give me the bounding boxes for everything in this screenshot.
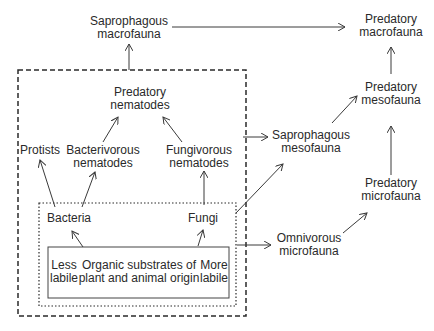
node-bacterivorous-nematodes: Bacterivorous nematodes	[66, 144, 139, 170]
label-line: Fungi	[188, 212, 218, 225]
label-line: labile	[200, 272, 228, 285]
node-protists: Protists	[20, 144, 60, 157]
node-more-labile: More labile	[200, 259, 228, 285]
arrow-omnivorous-to-predatory-micro	[343, 213, 367, 233]
node-saprophagous-mesofauna: Saprophagous mesofauna	[272, 129, 350, 155]
label-line: labile	[50, 272, 78, 285]
node-omnivorous-microfauna: Omnivorous microfauna	[277, 232, 342, 258]
label-line: mesofauna	[272, 142, 350, 155]
arrow-substrate-to-bacteria	[72, 231, 83, 247]
label-line: microfauna	[361, 190, 420, 203]
label-line: plant and animal origin	[79, 272, 200, 285]
label-line: Bacteria	[47, 212, 91, 225]
label-line: nematodes	[166, 157, 232, 170]
arrow-dotted-to-saprophagous-mesofauna	[236, 164, 283, 213]
node-bacteria: Bacteria	[47, 212, 91, 225]
node-predatory-microfauna: Predatory microfauna	[361, 177, 420, 203]
arrow-fungivorous-to-predatory-nematodes	[163, 117, 182, 142]
arrow-saprophagous-meso-to-predatory-meso	[332, 96, 357, 123]
label-line: macrofauna	[90, 28, 168, 41]
label-line: nematodes	[66, 157, 139, 170]
node-predatory-macrofauna: Predatory macrofauna	[359, 13, 422, 39]
label-line: microfauna	[277, 245, 342, 258]
arrow-bacterivorous-to-predatory-nematodes	[103, 117, 118, 142]
node-predatory-mesofauna: Predatory mesofauna	[361, 81, 420, 107]
node-fungivorous-nematodes: Fungivorous nematodes	[166, 144, 232, 170]
node-predatory-nematodes: Predatory nematodes	[110, 86, 169, 112]
label-line: Protists	[20, 144, 60, 157]
label-line: nematodes	[110, 99, 169, 112]
arrow-bacteria-to-protists	[40, 160, 55, 207]
label-line: mesofauna	[361, 94, 420, 107]
arrow-bacteria-to-bacterivorous	[82, 172, 95, 207]
node-less-labile: Less labile	[50, 259, 78, 285]
label-line: macrofauna	[359, 26, 422, 39]
node-saprophagous-macrofauna: Saprophagous macrofauna	[90, 15, 168, 41]
node-fungi: Fungi	[188, 212, 218, 225]
node-organic-substrates: Organic substrates of plant and animal o…	[79, 259, 200, 285]
arrow-substrate-to-fungi	[198, 230, 203, 246]
